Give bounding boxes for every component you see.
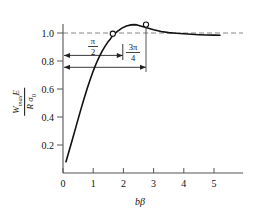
y-axis-title: WmaxE R σ0: [2, 74, 48, 130]
chart-container: 1.0 0.8 0.6 0.4 0.2 0 1 2 3 4 5 bβ π 2: [0, 0, 261, 214]
annotation-three-pi-over-4: [64, 65, 146, 70]
x-axis-ticks: [63, 168, 214, 173]
annotation-pi-over-2-numerator: π: [91, 36, 96, 46]
annotation-three-pi-over-4-numerator: 3π: [129, 42, 138, 52]
data-curve: [66, 25, 220, 162]
x-tick-label-3: 3: [151, 178, 156, 189]
annotation-pi-over-2-denominator: 2: [91, 47, 95, 57]
y-tick-label-0.2: 0.2: [42, 140, 55, 151]
crossing-marker: [110, 31, 115, 36]
y-tick-label-1.0: 1.0: [42, 28, 55, 39]
y-axis-title-sigma-subscript: 0: [30, 94, 37, 97]
annotation-three-pi-over-4-denominator: 4: [131, 53, 136, 63]
x-tick-label-5: 5: [212, 178, 217, 189]
x-axis-title: bβ: [135, 196, 145, 207]
y-axis-title-denominator: R σ0: [26, 94, 38, 109]
x-tick-label-1: 1: [91, 178, 96, 189]
y-axis-title-e: E: [11, 90, 21, 96]
y-axis-ticks: [57, 33, 63, 145]
peak-marker: [143, 22, 148, 27]
y-axis-title-r: R: [26, 104, 36, 110]
y-tick-label-0.8: 0.8: [42, 56, 55, 67]
x-tick-label-4: 4: [181, 178, 186, 189]
y-axis-title-w: W: [11, 106, 21, 114]
y-axis-title-numerator: WmaxE: [12, 88, 25, 116]
y-axis-title-sigma: σ: [26, 98, 36, 102]
x-tick-label-2: 2: [121, 178, 126, 189]
y-axis-title-max-subscript: max: [16, 96, 23, 107]
x-tick-label-0: 0: [61, 178, 66, 189]
